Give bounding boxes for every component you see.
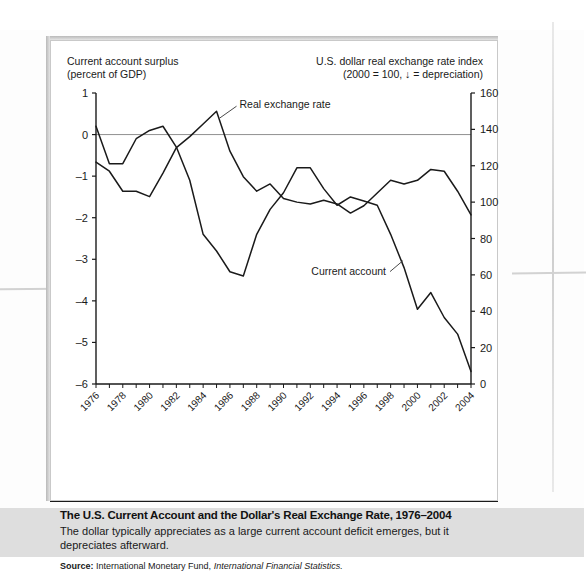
svg-text:Current account: Current account: [311, 265, 386, 277]
svg-text:1984: 1984: [185, 389, 209, 413]
svg-text:60: 60: [480, 269, 492, 281]
svg-text:–3: –3: [76, 253, 88, 265]
figure-panel: Current account surplus (percent of GDP)…: [50, 40, 498, 501]
line-chart: 10–1–2–3–4–5–6 160140120100806040200 197…: [51, 41, 499, 441]
caption-title: The U.S. Current Account and the Dollar'…: [60, 509, 488, 521]
left-axis: 10–1–2–3–4–5–6: [76, 87, 96, 390]
svg-text:100: 100: [480, 196, 498, 208]
svg-text:1998: 1998: [373, 389, 397, 413]
svg-text:20: 20: [480, 342, 492, 354]
source-text: International Monetary Fund,: [96, 561, 211, 571]
figure-caption: The U.S. Current Account and the Dollar'…: [50, 501, 498, 571]
source-publication: International Financial Statistics.: [214, 561, 343, 571]
right-axis: 160140120100806040200: [471, 87, 498, 390]
svg-text:2004: 2004: [453, 389, 477, 413]
svg-text:2000: 2000: [399, 389, 423, 413]
svg-text:–2: –2: [76, 212, 88, 224]
svg-text:40: 40: [480, 305, 492, 317]
scan-artifact-right: [512, 272, 586, 275]
source-line: Source: International Monetary Fund, Int…: [60, 561, 488, 571]
svg-text:1978: 1978: [105, 389, 129, 413]
bottom-axis: [96, 384, 471, 388]
svg-text:140: 140: [480, 123, 498, 135]
svg-text:1990: 1990: [265, 389, 289, 413]
svg-text:1994: 1994: [319, 389, 343, 413]
series-annotations: Real exchange rateCurrent account: [220, 98, 403, 276]
svg-text:1996: 1996: [346, 389, 370, 413]
svg-text:–5: –5: [76, 336, 88, 348]
data-series-group: [96, 111, 471, 371]
scan-artifact-vertical: [552, 22, 554, 492]
svg-text:1980: 1980: [131, 389, 155, 413]
svg-text:0: 0: [480, 378, 486, 390]
svg-text:1976: 1976: [78, 389, 102, 413]
svg-text:–6: –6: [76, 378, 88, 390]
svg-text:1982: 1982: [158, 389, 182, 413]
svg-text:0: 0: [82, 129, 88, 141]
svg-text:2002: 2002: [426, 389, 450, 413]
caption-text: The dollar typically appreciates as a la…: [60, 524, 476, 552]
svg-text:80: 80: [480, 233, 492, 245]
page-top-margin: [0, 0, 584, 30]
source-label: Source:: [60, 561, 94, 571]
svg-text:1: 1: [82, 87, 88, 99]
svg-text:1992: 1992: [292, 389, 316, 413]
plot-area: 10–1–2–3–4–5–6 160140120100806040200 197…: [51, 41, 499, 441]
svg-text:1988: 1988: [239, 389, 263, 413]
svg-text:120: 120: [480, 160, 498, 172]
x-axis-tick-labels: 1976197819801982198419861988199019921994…: [78, 389, 477, 413]
svg-text:1986: 1986: [212, 389, 236, 413]
svg-text:–1: –1: [76, 170, 88, 182]
svg-text:Real exchange rate: Real exchange rate: [240, 98, 331, 110]
svg-text:–4: –4: [76, 295, 88, 307]
svg-text:160: 160: [480, 87, 498, 99]
